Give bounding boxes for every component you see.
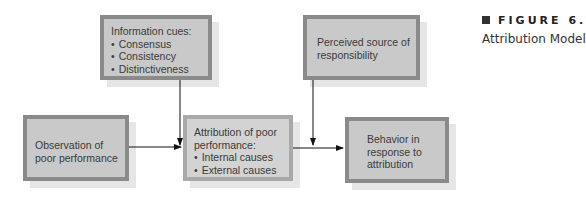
information-cues-list: Consensus Consistency Distinctiveness xyxy=(111,38,201,76)
list-item: External causes xyxy=(194,164,282,177)
behavior-box: Behavior in response to attribution xyxy=(345,117,449,183)
perceived-source-box: Perceived source of responsibility xyxy=(303,15,420,80)
attribution-title: Attribution of poor performance: xyxy=(194,126,289,151)
observation-box: Observation of poor performance xyxy=(23,115,129,181)
figure-title: Attribution Model xyxy=(482,32,586,46)
attribution-box: Attribution of poor performance: Interna… xyxy=(183,115,293,181)
list-item: Consistency xyxy=(111,50,201,63)
list-item: Consensus xyxy=(111,38,201,51)
list-item: Internal causes xyxy=(194,151,282,164)
list-item: Distinctiveness xyxy=(111,63,201,76)
perceived-source-text: Perceived source of responsibility xyxy=(317,36,412,61)
behavior-text: Behavior in response to attribution xyxy=(367,133,437,171)
figure-caption: FIGURE 6. Attribution Model xyxy=(482,14,586,46)
information-cues-box: Information cues: Consensus Consistency … xyxy=(100,15,212,80)
observation-text: Observation of poor performance xyxy=(35,139,127,164)
square-bullet-icon xyxy=(482,16,490,24)
attribution-list: Internal causes External causes xyxy=(194,151,282,176)
figure-number: FIGURE 6. xyxy=(482,14,586,27)
information-cues-title: Information cues: xyxy=(111,25,201,38)
